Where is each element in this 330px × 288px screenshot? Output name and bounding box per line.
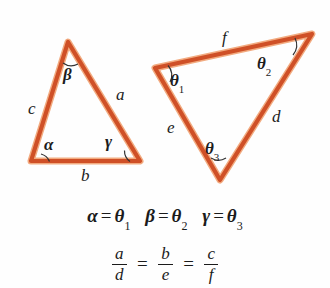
angle-label-theta-2: θ2 bbox=[257, 55, 271, 75]
angle-pair-2-operator: = bbox=[158, 205, 169, 226]
angle-pair-3-operator: = bbox=[213, 205, 224, 226]
angle-pair-2-right-base: θ bbox=[172, 205, 182, 226]
angle-pair-3: γ=θ3 bbox=[202, 205, 243, 231]
equation-side-ratios: a d = b e = c f bbox=[0, 245, 330, 284]
angle-label-beta: β bbox=[63, 66, 72, 83]
angle-pair-1-right-subscript: 1 bbox=[124, 219, 130, 233]
angle-pair-1-operator: = bbox=[101, 205, 112, 226]
angle-pair-1-right-base: θ bbox=[115, 205, 125, 226]
side-label-d: d bbox=[272, 108, 281, 125]
theta-1-subscript: 1 bbox=[179, 83, 185, 95]
fraction-2-denominator: e bbox=[158, 265, 173, 284]
fraction-b-over-e: b e bbox=[158, 245, 173, 284]
angle-label-theta-1: θ1 bbox=[170, 72, 184, 92]
fraction-1-denominator: d bbox=[112, 265, 127, 284]
fraction-1-numerator: a bbox=[112, 245, 127, 265]
fraction-a-over-d: a d bbox=[112, 245, 127, 284]
angle-label-gamma: γ bbox=[105, 133, 112, 150]
theta-3-subscript: 3 bbox=[214, 151, 220, 163]
theta-2-subscript: 2 bbox=[266, 66, 272, 78]
side-label-c: c bbox=[28, 100, 36, 117]
angle-pair-3-right-base: θ bbox=[227, 205, 237, 226]
side-label-b: b bbox=[81, 167, 90, 184]
theta-3-base: θ bbox=[205, 139, 214, 158]
ratio-operator-2: = bbox=[183, 253, 194, 275]
fraction-3-denominator: f bbox=[204, 265, 218, 284]
side-label-f: f bbox=[222, 29, 227, 46]
theta-1-base: θ bbox=[170, 71, 179, 90]
side-label-a: a bbox=[116, 86, 125, 103]
theta-2-base: θ bbox=[257, 54, 266, 73]
fraction-c-over-f: c f bbox=[204, 245, 218, 284]
similar-triangles-figure: a b c α β γ d e f θ1 θ2 θ3 α=θ1 β=θ2 γ=θ… bbox=[0, 0, 330, 288]
angle-pair-2-left: β bbox=[145, 205, 155, 226]
fraction-3-numerator: c bbox=[204, 245, 218, 265]
angle-pair-2-right-subscript: 2 bbox=[181, 219, 187, 233]
angle-label-theta-3: θ3 bbox=[205, 140, 219, 160]
angle-label-alpha: α bbox=[44, 136, 53, 153]
equation-angle-correspondence: α=θ1 β=θ2 γ=θ3 bbox=[0, 205, 330, 231]
angle-pair-3-left: γ bbox=[202, 205, 210, 226]
side-label-e: e bbox=[167, 119, 175, 136]
triangle-def-outline bbox=[155, 34, 312, 180]
angle-pair-3-right-subscript: 3 bbox=[237, 219, 243, 233]
angle-pair-1: α=θ1 bbox=[87, 205, 130, 231]
ratio-operator-1: = bbox=[137, 253, 148, 275]
triangle-def-shape bbox=[155, 34, 312, 180]
fraction-2-numerator: b bbox=[158, 245, 173, 265]
angle-pair-2: β=θ2 bbox=[145, 205, 187, 231]
angle-pair-1-left: α bbox=[87, 205, 98, 226]
